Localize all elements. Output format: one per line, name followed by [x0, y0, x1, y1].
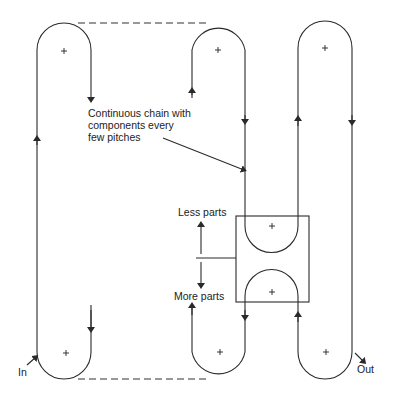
label-in: In [18, 366, 27, 378]
chain-loop-middle [192, 28, 245, 374]
chain-loop-right [298, 21, 352, 379]
annotation-leader [163, 138, 244, 170]
annotation-line-2: components every [88, 119, 175, 131]
annotation-line-3: few pitches [88, 131, 141, 143]
label-less-parts: Less parts [178, 206, 226, 218]
chain-loop-left [37, 23, 91, 379]
sprocket-center-icons [61, 45, 329, 356]
label-more-parts: More parts [174, 290, 224, 302]
in-arrow [27, 357, 36, 365]
chain-conveyor-diagram: Continuous chain with components every f… [0, 0, 397, 397]
label-out: Out [357, 363, 374, 375]
annotation-line-1: Continuous chain with [88, 107, 191, 119]
out-arrow [355, 353, 364, 362]
